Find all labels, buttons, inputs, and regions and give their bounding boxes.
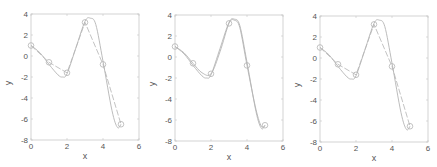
y-tick-label: -8: [165, 137, 173, 146]
y-tick-label: 0: [313, 54, 318, 63]
y-axis-label: y: [147, 81, 157, 86]
y-axis-label: y: [3, 80, 13, 85]
x-tick-label: 2: [65, 142, 70, 151]
y-tick-label: 2: [24, 31, 29, 40]
x-tick-label: 4: [390, 144, 395, 153]
chart-panel-2: 0246420-2-4-6-8xy: [147, 11, 286, 162]
y-axis-label: y: [292, 82, 302, 87]
x-axis-label: x: [227, 152, 232, 162]
plot-area: [31, 14, 139, 140]
y-tick-label: -2: [21, 73, 29, 82]
y-tick-label: -6: [310, 117, 318, 126]
y-tick-label: 4: [24, 10, 29, 19]
x-tick-label: 2: [354, 144, 359, 153]
x-tick-label: 6: [426, 144, 431, 153]
x-tick-label: 0: [173, 143, 178, 152]
x-tick-label: 0: [318, 144, 323, 153]
y-tick-label: 0: [168, 53, 173, 62]
figure: 0246420-2-4-6-8xy0246420-2-4-6-8xy024642…: [0, 0, 437, 167]
y-tick-label: -2: [165, 74, 173, 83]
y-tick-label: -4: [21, 94, 29, 103]
x-axis-label: x: [372, 153, 377, 163]
x-tick-label: 4: [245, 143, 250, 152]
y-tick-label: 2: [313, 33, 318, 42]
y-tick-label: -8: [21, 136, 29, 145]
x-tick-label: 6: [281, 143, 286, 152]
y-tick-label: 0: [24, 52, 29, 61]
plot-area: [175, 15, 283, 141]
chart-panel-3: 0246420-2-4-6-8xy: [292, 12, 431, 163]
y-tick-label: 2: [168, 32, 173, 41]
x-tick-label: 2: [209, 143, 214, 152]
x-tick-label: 4: [101, 142, 106, 151]
y-tick-label: -6: [21, 115, 29, 124]
y-tick-label: 4: [168, 11, 173, 20]
x-tick-label: 0: [29, 142, 34, 151]
y-tick-label: -8: [310, 138, 318, 147]
x-tick-label: 6: [137, 142, 142, 151]
y-tick-label: 4: [313, 12, 318, 21]
y-tick-label: -4: [310, 96, 318, 105]
x-axis-label: x: [83, 151, 88, 161]
y-tick-label: -6: [165, 116, 173, 125]
y-tick-label: -4: [165, 95, 173, 104]
y-tick-label: -2: [310, 75, 318, 84]
chart-panel-1: 0246420-2-4-6-8xy: [3, 10, 142, 161]
plot-area: [320, 16, 428, 142]
